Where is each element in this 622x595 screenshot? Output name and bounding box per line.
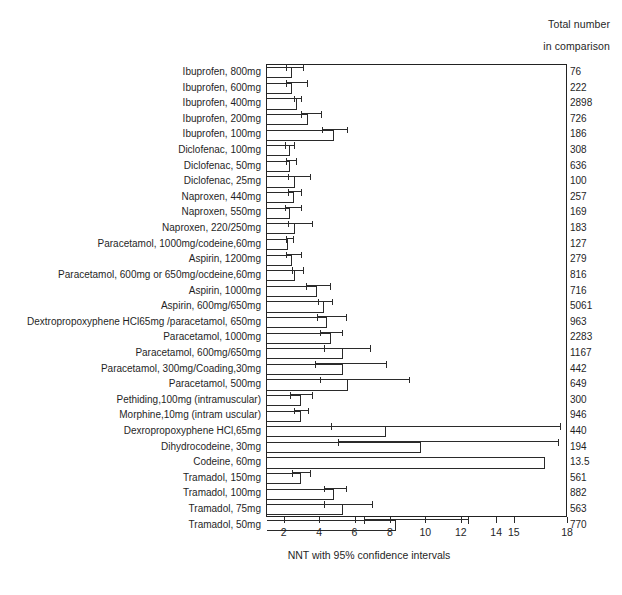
bar-row: [267, 237, 566, 253]
comparison-count: 308: [570, 142, 622, 158]
comparison-count: 169: [570, 204, 622, 220]
bar-row: [267, 299, 566, 315]
bar-row: [267, 315, 566, 331]
bar-row: [267, 221, 566, 237]
x-axis-tick-label: 15: [508, 526, 520, 538]
x-axis-tick-label: 4: [316, 526, 322, 538]
error-bar: [292, 472, 311, 473]
bar-row: [267, 205, 566, 221]
error-bar: [320, 332, 343, 333]
category-label: Paracetamol, 300mg/Coading,30mg: [0, 361, 264, 377]
data-bar: [267, 504, 343, 515]
category-label: Diclofenac, 100mg: [0, 142, 264, 158]
bar-row: [267, 377, 566, 393]
comparison-count: 770: [570, 517, 622, 533]
x-axis-tick-label: 2: [281, 526, 287, 538]
error-bar: [318, 301, 332, 302]
comparison-count: 279: [570, 251, 622, 267]
error-bar: [286, 67, 304, 68]
bar-row: [267, 471, 566, 487]
error-bar: [294, 98, 303, 99]
error-bar: [288, 176, 311, 177]
category-label: Diclofenac, 50mg: [0, 158, 264, 174]
bar-row: [267, 440, 566, 456]
category-label: Naproxen, 550mg: [0, 204, 264, 220]
error-bar: [322, 129, 349, 130]
data-bar: [267, 301, 324, 312]
x-axis-title: NNT with 95% confidence intervals: [0, 549, 622, 561]
x-axis-tick-label: 6: [352, 526, 358, 538]
plot-area: [266, 64, 567, 517]
error-bar: [290, 394, 313, 395]
bar-row: [267, 112, 566, 128]
error-bar: [306, 285, 331, 286]
category-label: Aspirin, 600mg/650mg: [0, 298, 264, 314]
error-bar: [285, 145, 296, 146]
category-label: Diclofenac, 25mg: [0, 173, 264, 189]
comparison-count: 563: [570, 501, 622, 517]
category-label: Paracetamol, 1000mg/codeine,60mg: [0, 236, 264, 252]
x-axis-tick-label: 8: [387, 526, 393, 538]
data-bar: [267, 83, 292, 94]
data-bar: [267, 223, 295, 234]
data-bar: [267, 473, 301, 484]
bar-row: [267, 330, 566, 346]
x-axis-title-text: NNT with 95% confidence intervals: [288, 549, 451, 561]
category-label: Aspirin, 1200mg: [0, 251, 264, 267]
data-bar: [267, 208, 290, 219]
comparison-count: 127: [570, 236, 622, 252]
comparison-count: 636: [570, 158, 622, 174]
x-axis-tick: [425, 517, 426, 523]
category-label: Ibuprofen, 100mg: [0, 126, 264, 142]
x-axis-tick: [461, 517, 462, 523]
counts-column: 7622228987261863086361002571691831272798…: [570, 64, 622, 532]
data-bar: [267, 411, 301, 422]
comparison-count: 440: [570, 423, 622, 439]
data-bar: [267, 255, 292, 266]
data-bar: [267, 457, 545, 468]
comparison-count: 257: [570, 189, 622, 205]
error-bar: [301, 113, 322, 114]
bar-row: [267, 393, 566, 409]
data-bar: [267, 395, 301, 406]
bar-row: [267, 362, 566, 378]
comparison-count: 561: [570, 470, 622, 486]
category-label: Tramadol, 150mg: [0, 470, 264, 486]
error-bar: [294, 410, 310, 411]
category-label: Dihydrocodeine, 30mg: [0, 439, 264, 455]
bar-row: [267, 408, 566, 424]
bar-row: [267, 346, 566, 362]
comparison-count: 649: [570, 376, 622, 392]
nnt-forest-chart-figure: Total number in comparison Ibuprofen, 80…: [0, 0, 622, 595]
comparison-count: 2898: [570, 95, 622, 111]
comparison-count: 442: [570, 361, 622, 377]
category-label: Naproxen, 220/250mg: [0, 220, 264, 236]
category-label: Paracetamol, 600mg/650mg: [0, 345, 264, 361]
x-axis-tick-label: 10: [420, 526, 432, 538]
error-bar: [331, 426, 561, 427]
comparison-count: 222: [570, 80, 622, 96]
data-bar: [267, 176, 295, 187]
data-bar: [267, 333, 331, 344]
bar-row: [267, 159, 566, 175]
category-label: Tramadol, 50mg: [0, 517, 264, 533]
category-label: Paracetamol, 600mg or 650mg/ocdeine,60mg: [0, 267, 264, 283]
category-labels-column: Ibuprofen, 800mgIbuprofen, 600mgIbuprofe…: [0, 64, 264, 532]
error-bar: [324, 348, 372, 349]
bar-row: [267, 252, 566, 268]
comparison-count: 13.5: [570, 454, 622, 470]
data-bar: [267, 286, 317, 297]
x-axis-tick: [390, 517, 391, 523]
x-axis-tick-label: 14: [490, 526, 502, 538]
error-bar: [338, 441, 559, 442]
bar-row: [267, 190, 566, 206]
comparison-count: 1167: [570, 345, 622, 361]
error-bar: [292, 270, 304, 271]
data-bar: [267, 348, 343, 359]
category-label: Dextropropoxyphene HCl65mg /paracetamol,…: [0, 314, 264, 330]
comparison-count: 816: [570, 267, 622, 283]
bar-row: [267, 518, 566, 534]
counts-column-header-line2: in comparison: [543, 40, 610, 52]
category-label: Ibuprofen, 600mg: [0, 80, 264, 96]
category-label: Ibuprofen, 400mg: [0, 95, 264, 111]
